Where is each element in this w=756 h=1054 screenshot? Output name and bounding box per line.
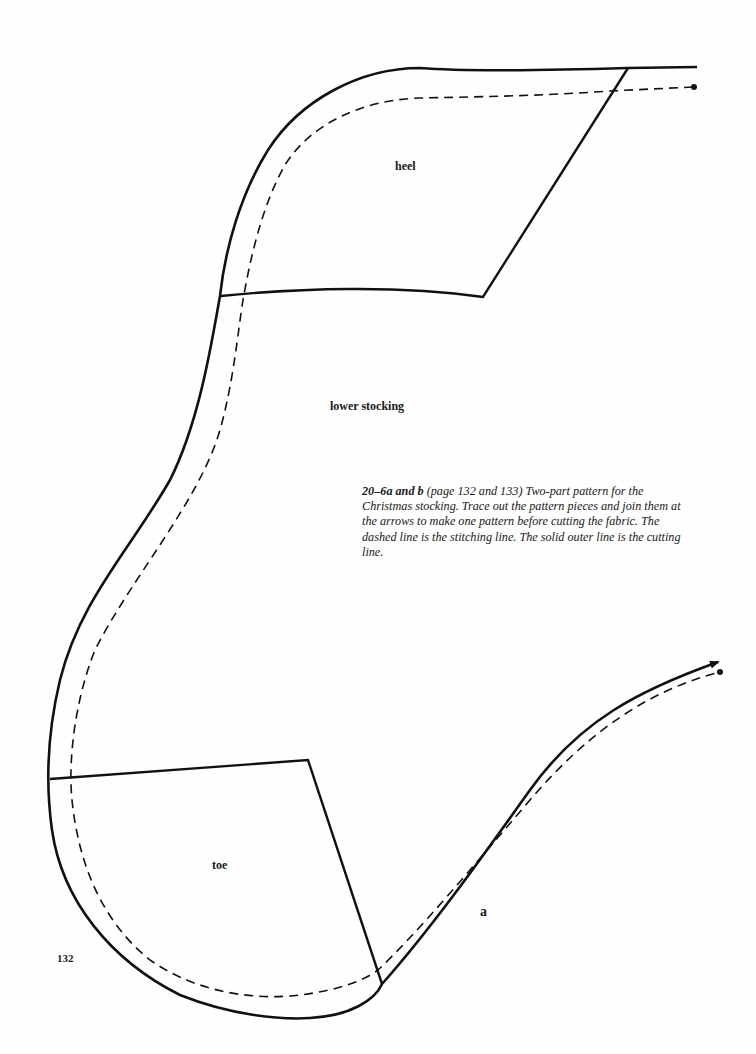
figure-id: 20–6a and b (362, 484, 424, 498)
book-page: heel lower stocking toe 20–6a and b (pag… (0, 0, 756, 1054)
stitching-end-dot-top (691, 84, 697, 90)
heel-division-line (221, 68, 628, 297)
page-number: 132 (57, 952, 74, 964)
stitching-end-dot-bottom (717, 669, 723, 675)
lower-stocking-label: lower stocking (330, 399, 404, 414)
toe-label: toe (212, 858, 227, 873)
heel-label: heel (395, 159, 416, 174)
figure-caption: 20–6a and b (page 132 and 133) Two-part … (362, 484, 692, 560)
figure-reference: (page 132 and 133) (427, 484, 523, 498)
pattern-piece-letter: a (480, 904, 487, 920)
